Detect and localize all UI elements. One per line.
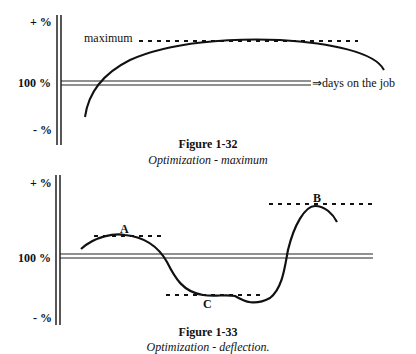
maximum-label: maximum bbox=[84, 31, 133, 46]
point-a-label: A bbox=[120, 222, 129, 237]
figure-1-33: + % 100 % - % A B C Figure 1-33 Optimiza… bbox=[0, 170, 416, 354]
y-label-100: 100 % bbox=[18, 251, 51, 266]
y-axis bbox=[57, 15, 61, 145]
y-axis bbox=[56, 175, 60, 325]
caption-title: Figure 1-33 bbox=[0, 325, 416, 340]
caption-subtitle: Optimization - maximum bbox=[0, 153, 416, 168]
figure-1-32: + % 100 % - % maximum ⇒days on the job F… bbox=[0, 0, 416, 170]
caption-subtitle: Optimization - deflection. bbox=[0, 340, 416, 354]
caption-title: Figure 1-32 bbox=[0, 137, 416, 152]
y-label-plus: + % bbox=[30, 176, 52, 191]
point-b-label: B bbox=[313, 191, 321, 206]
y-label-minus: - % bbox=[33, 123, 52, 138]
y-label-100: 100 % bbox=[18, 76, 51, 91]
x-axis-label: ⇒days on the job bbox=[312, 76, 395, 91]
y-label-minus: - % bbox=[33, 311, 52, 326]
point-c-label: C bbox=[203, 297, 212, 312]
y-label-plus: + % bbox=[30, 15, 52, 30]
baseline-100 bbox=[60, 254, 373, 258]
